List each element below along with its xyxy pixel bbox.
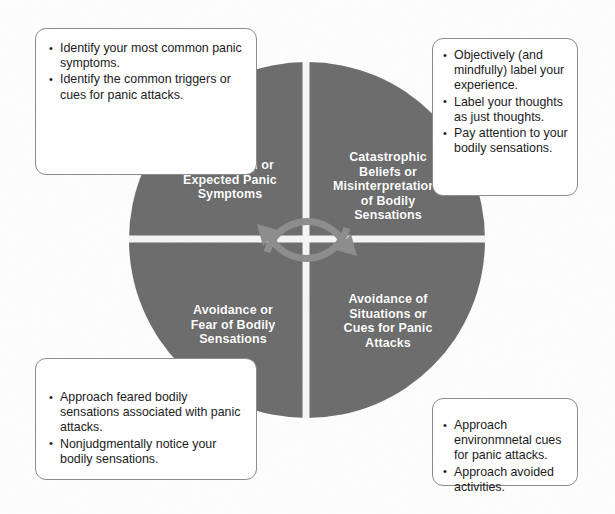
quadrant-label-line: Symptoms (155, 187, 305, 202)
quadrant-label-line: Situations or (312, 307, 464, 322)
callout-item: Approach avoided activities. (443, 465, 571, 495)
callout-item: Approach environmnetal cues for panic at… (443, 418, 571, 464)
quadrant-label-line: Avoidance of (312, 292, 464, 307)
callout-item: Pay attention to your bodily sensations. (443, 126, 569, 156)
callout-box-bottom-right: Approach environmnetal cues for panic at… (432, 398, 578, 486)
quadrant-label-bottom-right: Avoidance of Situations or Cues for Pani… (312, 292, 464, 350)
callout-list: Approach environmnetal cues for panic at… (443, 418, 571, 495)
callout-item: Objectively (and mindfully) label your e… (443, 48, 569, 94)
callout-item: Label your thoughts as just thoughts. (443, 95, 569, 125)
callout-box-top-left: Identify your most common panic symptoms… (35, 28, 257, 175)
diagram-canvas: Unexpected or Expected Panic Symptoms Ca… (0, 0, 615, 514)
callout-item: Approach feared bodily sensations associ… (49, 390, 246, 436)
quadrant-label-line: Cues for Panic (312, 321, 464, 336)
quadrant-label-line: Sensations (310, 208, 466, 223)
quadrant-label-line: Attacks (312, 336, 464, 351)
quadrant-label-line: Avoidance or (160, 303, 306, 318)
quadrant-label-line: Fear of Bodily (160, 318, 306, 333)
callout-box-top-right: Objectively (and mindfully) label your e… (432, 38, 578, 196)
callout-list: Objectively (and mindfully) label your e… (443, 48, 569, 156)
callout-item: Nonjudgmentally notice your bodily sensa… (49, 437, 246, 467)
callout-box-bottom-left: Approach feared bodily sensations associ… (35, 358, 257, 480)
quadrant-label-line: Sensations (160, 332, 306, 347)
callout-list: Identify your most common panic symptoms… (49, 41, 246, 103)
quadrant-label-bottom-left: Avoidance or Fear of Bodily Sensations (160, 303, 306, 347)
callout-item: Identify your most common panic symptoms… (49, 41, 246, 71)
callout-list: Approach feared bodily sensations associ… (49, 390, 246, 467)
callout-item: Identify the common triggers or cues for… (49, 72, 246, 102)
